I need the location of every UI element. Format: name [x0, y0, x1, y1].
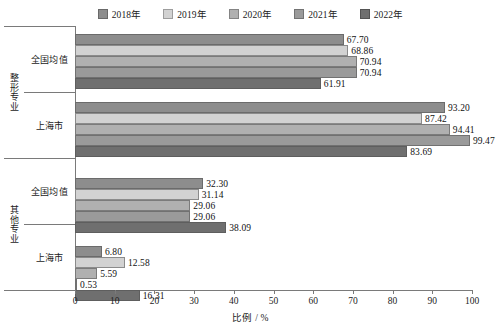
bar-row: 87.42: [75, 113, 472, 124]
bar-value-label: 70.94: [360, 57, 382, 67]
bar-value-label: 32.30: [206, 179, 228, 189]
legend-swatch-icon: [163, 9, 173, 19]
x-tick: [154, 290, 155, 294]
bar-2022年[interactable]: [75, 78, 321, 89]
plot-area: 67.7068.8670.9470.9461.9193.2087.4294.41…: [75, 26, 472, 290]
bar-value-label: 6.80: [105, 247, 122, 257]
bar-2020年[interactable]: [75, 124, 450, 135]
bar-value-label: 5.59: [100, 269, 117, 279]
legend-item-2020年[interactable]: 2020年: [229, 7, 273, 21]
bar-value-label: 67.70: [347, 35, 369, 45]
x-tick-label: 40: [229, 296, 239, 306]
chart-legend: 2018年2019年2020年2021年2022年: [0, 7, 501, 21]
x-tick-label: 20: [150, 296, 160, 306]
legend-label: 2020年: [243, 7, 273, 21]
bar-row: 29.06: [75, 200, 472, 211]
category-separator: [4, 26, 75, 27]
bar-2019年[interactable]: [75, 189, 199, 200]
bar-2021年[interactable]: [75, 211, 190, 222]
x-tick-label: 90: [428, 296, 438, 306]
bar-2018年[interactable]: [75, 102, 445, 113]
x-tick-label: 0: [73, 296, 78, 306]
bar-2021年[interactable]: [75, 279, 77, 290]
legend-item-2021年[interactable]: 2021年: [294, 7, 338, 21]
legend-label: 2018年: [112, 7, 142, 21]
legend-swatch-icon: [98, 9, 108, 19]
bar-value-label: 31.14: [202, 190, 224, 200]
bar-2019年[interactable]: [75, 257, 125, 268]
bar-row: 93.20: [75, 102, 472, 113]
bar-row: 70.94: [75, 56, 472, 67]
bar-value-label: 38.09: [229, 223, 251, 233]
bar-row: 99.47: [75, 135, 472, 146]
x-tick-label: 70: [348, 296, 358, 306]
category-separator: [4, 158, 75, 159]
bar-2020年[interactable]: [75, 56, 357, 67]
bar-row: 0.53: [75, 279, 472, 290]
legend-label: 2019年: [177, 7, 207, 21]
x-tick: [472, 290, 473, 294]
bar-value-label: 93.20: [448, 103, 470, 113]
bar-2019年[interactable]: [75, 45, 348, 56]
bar-row: 38.09: [75, 222, 472, 233]
category-separator: [24, 92, 75, 93]
bar-2018年[interactable]: [75, 34, 344, 45]
x-tick: [432, 290, 433, 294]
bar-value-label: 70.94: [360, 68, 382, 78]
inner-category-label: 全国均值: [31, 185, 68, 198]
bar-2020年[interactable]: [75, 268, 97, 279]
legend-swatch-icon: [360, 9, 370, 19]
bar-2018年[interactable]: [75, 246, 102, 257]
legend-label: 2021年: [308, 7, 338, 21]
bar-value-label: 61.91: [324, 79, 346, 89]
bar-value-label: 99.47: [473, 136, 495, 146]
x-tick-label: 30: [189, 296, 199, 306]
bar-2022年[interactable]: [75, 146, 407, 157]
bar-2019年[interactable]: [75, 113, 422, 124]
x-tick-label: 10: [110, 296, 120, 306]
bar-value-label: 94.41: [453, 125, 475, 135]
x-tick-label: 80: [388, 296, 398, 306]
x-tick-label: 50: [269, 296, 279, 306]
inner-category-label: 上海市: [36, 119, 64, 132]
bar-chart: 2018年2019年2020年2021年2022年 整形专业其他专业 全国均值上…: [0, 0, 501, 328]
bar-2022年[interactable]: [75, 222, 226, 233]
legend-item-2022年[interactable]: 2022年: [360, 7, 404, 21]
bar-row: 5.59: [75, 268, 472, 279]
bar-value-label: 68.86: [351, 46, 373, 56]
bar-2021年[interactable]: [75, 67, 357, 78]
x-tick: [75, 290, 76, 294]
inner-category-label: 上海市: [36, 251, 64, 264]
x-tick: [194, 290, 195, 294]
bar-row: 61.91: [75, 78, 472, 89]
legend-swatch-icon: [294, 9, 304, 19]
bar-value-label: 83.69: [410, 147, 432, 157]
inner-category-label: 全国均值: [31, 53, 68, 66]
outer-category-整形专业: 整形专业: [4, 26, 24, 158]
bar-row: 31.14: [75, 189, 472, 200]
bar-2021年[interactable]: [75, 135, 470, 146]
outer-category-其他专业: 其他专业: [4, 158, 24, 290]
bar-2020年[interactable]: [75, 200, 190, 211]
x-tick-label: 60: [308, 296, 318, 306]
bar-row: 67.70: [75, 34, 472, 45]
legend-item-2018年[interactable]: 2018年: [98, 7, 142, 21]
x-tick: [234, 290, 235, 294]
bar-row: 83.69: [75, 146, 472, 157]
legend-item-2019年[interactable]: 2019年: [163, 7, 207, 21]
x-tick-label: 100: [465, 296, 479, 306]
x-tick: [353, 290, 354, 294]
bar-value-label: 29.06: [193, 212, 215, 222]
bar-row: 6.80: [75, 246, 472, 257]
inner-category-其他专业-全国均值: 全国均值: [24, 158, 75, 224]
bar-value-label: 0.53: [80, 280, 97, 290]
x-tick: [393, 290, 394, 294]
category-separator: [4, 290, 75, 291]
bar-value-label: 12.58: [128, 258, 150, 268]
x-tick: [274, 290, 275, 294]
bar-row: 68.86: [75, 45, 472, 56]
bar-row: 94.41: [75, 124, 472, 135]
x-tick: [115, 290, 116, 294]
bar-2018年[interactable]: [75, 178, 203, 189]
bar-2022年[interactable]: [75, 290, 140, 301]
